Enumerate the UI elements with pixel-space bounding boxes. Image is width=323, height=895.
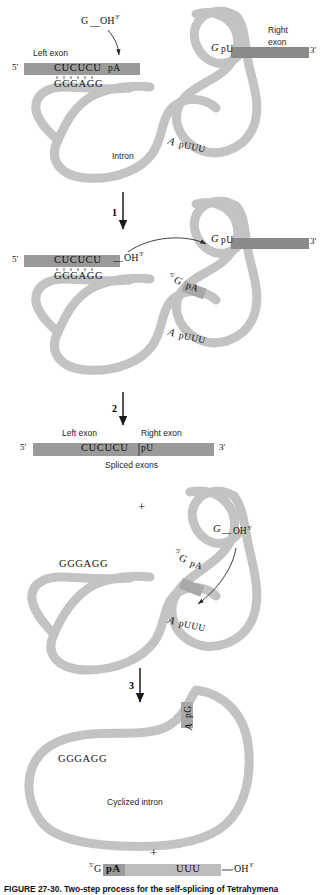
linear-fragment-bar	[103, 864, 233, 876]
spliced-exons-label: Spliced exons	[105, 461, 158, 470]
fragment-uuu-label: UUU	[176, 864, 201, 875]
fragment-pa-label: pA	[106, 864, 121, 875]
guanosine-oh-prime: 3'	[115, 14, 120, 21]
exon-three-oh-label-p2: OH	[124, 253, 138, 263]
internal-guide-sequence-p2: GGGAGG	[54, 271, 103, 282]
guanosine-g-label: G	[81, 16, 88, 26]
five-prime-label-p3: 5'	[20, 443, 26, 452]
spliced-sequence-right-p3: pU	[141, 444, 153, 454]
guanosine-bond-dash: —	[90, 21, 100, 31]
fragment-oh-label: OH	[234, 864, 248, 874]
three-splice-site-pu-p1: pU	[221, 45, 233, 55]
three-splice-site-g-p2: G	[211, 234, 219, 245]
five-splice-site-pa-p1: pA	[108, 64, 120, 74]
circle-a-label-p5: A	[184, 723, 195, 730]
three-splice-site-pu-p2: pU	[221, 236, 233, 246]
step-2-number: 2	[112, 404, 117, 414]
terminal-g-dash: —	[222, 528, 231, 537]
exon-three-oh-prime-p2: 3'	[139, 251, 144, 258]
terminal-g-label-p4: G	[213, 524, 221, 535]
fragment-oh-prime: 3'	[249, 862, 254, 869]
right-exon-bar	[231, 47, 309, 58]
cyclized-intron-label: Cyclized intron	[107, 798, 163, 807]
figure-caption: FIGURE 27-30. Two-step process for the s…	[4, 884, 319, 895]
three-splice-site-g-p1: G	[211, 43, 219, 54]
terminal-oh-prime-p4: 3'	[247, 525, 252, 532]
right-exon-bar-2	[231, 238, 309, 249]
left-exon-sequence-p2: CUCUCU	[54, 255, 101, 266]
panel-4-ribbon	[32, 491, 257, 670]
three-prime-label-p2: 3'	[310, 237, 316, 246]
internal-guide-sequence-p4: GGGAGG	[59, 559, 108, 570]
plus-sign-2: +	[150, 846, 157, 859]
terminal-oh-label-p4: OH	[233, 527, 247, 537]
left-exon-label-p3: Left exon	[62, 429, 97, 438]
splicing-diagram	[0, 0, 323, 895]
step-1-number: 1	[112, 208, 117, 218]
right-exon-label-p3: Right exon	[141, 429, 182, 438]
left-exon-label: Left exon	[33, 49, 68, 58]
exon-oh-dash: —	[113, 256, 123, 266]
step-3-number: 3	[129, 681, 134, 691]
internal-guide-sequence-p1: GGGAGG	[54, 79, 103, 90]
panel-2-ribbon	[24, 201, 309, 370]
five-prime-label-p2: 5'	[12, 255, 18, 264]
panel-1-ribbon	[24, 11, 309, 178]
panel-5-ribbon	[29, 690, 249, 846]
fragment-g-label: G	[94, 864, 101, 874]
three-prime-label-p1: 3'	[310, 46, 316, 55]
three-prime-label-p3: 3'	[219, 443, 225, 452]
five-prime-label-p1: 5'	[12, 63, 18, 72]
left-exon-sequence-p1: CUCUCU	[54, 63, 101, 74]
internal-guide-sequence-p5: GGGAGG	[58, 754, 107, 765]
intron-label-p1: Intron	[112, 152, 134, 161]
plus-sign-1: +	[138, 500, 145, 513]
circle-pg-label-p5: pG	[184, 706, 194, 718]
spliced-sequence-left-p3: CUCUCU	[81, 443, 128, 454]
right-exon-label-line2: exon	[268, 38, 286, 47]
figure-canvas: G — OH 3' Left exon Right exon 5' 3' CUC…	[0, 0, 323, 895]
right-exon-label-line1: Right	[268, 26, 288, 35]
guanosine-oh-label: OH	[100, 16, 114, 26]
